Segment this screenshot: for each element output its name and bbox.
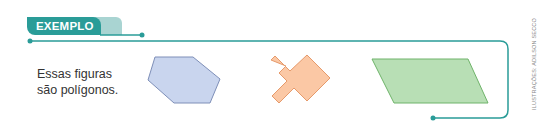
- hexagon-figure: [148, 57, 220, 103]
- polygon-figures: [0, 0, 544, 128]
- cross-diamond-figure: [271, 55, 330, 103]
- parallelogram-figure: [372, 59, 488, 103]
- illustration-credit: ILUSTRAÇÕES: ADILSON SECCO: [531, 18, 537, 110]
